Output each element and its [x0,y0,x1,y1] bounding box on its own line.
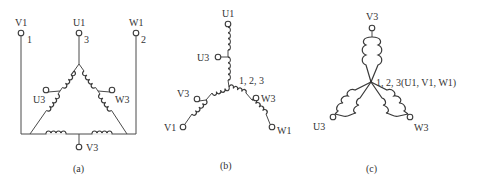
label-u3-b: U3 [197,52,209,63]
label-v3-c: V3 [366,11,378,22]
terminal-u3-a [43,87,49,93]
label-u1-b: U1 [222,8,234,19]
panel-a-delta: U3 W3 V3 V1 1 U1 [15,17,146,175]
center-label-b: 1, 2, 3 [239,75,264,86]
label-u3-a: U3 [33,94,45,105]
coil-pair-u [335,82,371,117]
terminal-v3-c [369,25,375,31]
terminal-v1-b [180,124,186,130]
u3-tap-wire [48,91,60,92]
label-w3-a: W3 [115,94,129,105]
terminal-w1-b [269,124,275,130]
terminal-v1-a [18,30,24,36]
label-num-3: 3 [84,34,89,45]
caption-b: (b) [220,160,232,172]
label-v1-a: V1 [15,17,27,28]
label-v3-a: V3 [86,142,98,153]
terminal-w3-a [109,87,115,93]
label-v3-b: V3 [177,88,189,99]
terminal-u1-a [76,30,82,36]
label-u3-c: U3 [313,121,325,132]
coil-v-upper [212,87,230,96]
label-w1-b: W1 [277,125,291,136]
coil-u-lower [228,57,230,80]
label-u1-a: U1 [73,17,85,28]
center-label-c: 1, 2, 3(U1, V1, W1) [376,77,456,89]
label-num-2: 2 [141,34,146,45]
label-w3-b: W3 [261,93,275,104]
panel-b-star: U1 U3 1, 2, 3 V3 V1 [164,8,291,172]
terminal-v3-a [76,144,82,150]
coil-u-upper [228,27,230,50]
terminal-u3-c [330,114,336,120]
caption-c: (c) [366,163,377,175]
coil-left-upper [63,64,79,89]
coil-v-lower [192,100,208,116]
terminal-w1-a [133,30,139,36]
motor-winding-connection-diagram: U3 W3 V3 V1 1 U1 [0,0,493,185]
terminal-v3-b [194,96,200,102]
caption-a: (a) [73,163,84,175]
label-w1-a: W1 [129,17,143,28]
terminal-u3-b [215,54,221,60]
label-v1-b: V1 [164,122,176,133]
label-w3-c: W3 [414,122,428,133]
panel-c-double-star: V3 1, 2, 3(U1, V1, W1) U3 W3 (c) [313,11,456,175]
terminal-u1-b [225,21,231,27]
terminal-w3-b [253,95,259,101]
coil-right-upper [79,64,95,89]
terminal-w3-c [407,114,413,120]
label-num-1: 1 [27,34,32,45]
w3-tap-wire [98,91,110,92]
coil-pair-v [362,37,382,82]
